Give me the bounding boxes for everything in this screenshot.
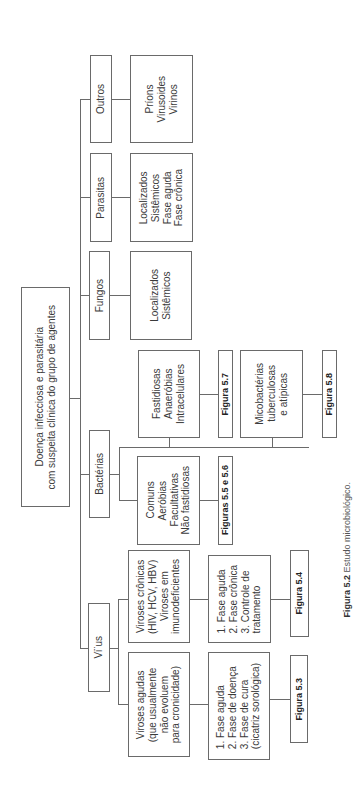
bacterias-branch-connector <box>110 474 119 475</box>
category-label: Vi¨us <box>93 636 105 659</box>
cronicas-phases-connector <box>190 599 208 600</box>
category-parasitas: Parasitas <box>90 153 112 242</box>
caption-text: Estudo microbiológico. <box>342 482 352 575</box>
category-virus: Vi¨us <box>88 603 110 692</box>
figure-ref-label: Figura 5.8 <box>324 373 335 416</box>
main-spine <box>80 99 81 649</box>
detail-label: Localizados Sistêmicos Fase aguda Fase c… <box>138 169 185 226</box>
detail-outros: Príons Virusoides Virinos <box>130 55 193 143</box>
virus-cronicas-phases: 1. Fase aguda 2. Fase crônica 3. Control… <box>208 555 271 643</box>
figure-ref-5-5-5-6: Figuras 5.5 e 5.6 <box>218 456 233 545</box>
comuns-figure-connector <box>200 500 218 501</box>
figure-caption: Figura 5.2 Estudo microbiológico. <box>337 340 357 760</box>
figure-ref-label: Figura 5.3 <box>294 678 305 721</box>
virus-agudas: Viroses agudas (que usualmente não evolu… <box>128 652 190 757</box>
detail-fungos: Localizados Sistêmicos <box>130 251 192 340</box>
category-bacterias: Bactérias <box>89 430 110 518</box>
virus-cronicas: Viroses crônicas (HIV, HCV, HBV) Viroses… <box>128 550 190 643</box>
figure-ref-label: Figura 5.4 <box>294 572 305 615</box>
virus-agudas-phases: 1. Fase aguda 2. Fase de doença 3. Fase … <box>208 652 270 760</box>
cronicas-label: Viroses crônicas (HIV, HCV, HBV) Viroses… <box>135 559 182 634</box>
comuns-connector <box>119 500 137 501</box>
agudas-connector <box>118 704 128 705</box>
fastidiosas-figure-connector <box>200 394 218 395</box>
category-label: Fungos <box>94 279 106 312</box>
category-fungos: Fungos <box>89 251 110 340</box>
detail-label: Príons Virusoides Virinos <box>144 76 179 123</box>
agudas-phases-connector <box>190 704 208 705</box>
agudas-figure-connector <box>270 699 290 700</box>
outros-connector <box>80 99 90 100</box>
figure-ref-5-7: Figura 5.7 <box>218 350 233 438</box>
virus-branch-spine <box>118 599 119 704</box>
agudas-label: Viroses agudas (que usualmente não evolu… <box>135 666 182 743</box>
micobacterias-figure-connector <box>303 394 322 395</box>
bacteria-comuns: Comuns Aeróbias Facultativas Não fastidi… <box>137 456 200 545</box>
comuns-label: Comuns Aeróbias Facultativas Não fastidi… <box>145 466 192 534</box>
cronicas-connector <box>118 599 128 600</box>
parasitas-connector <box>80 197 90 198</box>
bacterias-branch-spine <box>119 447 120 501</box>
bacteria-micobacterias: Micobactérias tuberculosas e atípicas <box>240 350 303 438</box>
bacteria-fastidiosas: Fastidiosas Anaeróbias Intracelulares <box>138 350 200 438</box>
figure-ref-label: Figura 5.7 <box>220 373 231 416</box>
figure-ref-5-4: Figura 5.4 <box>290 550 309 637</box>
cronicas-figure-connector <box>271 599 290 600</box>
parasitas-detail-connector <box>112 197 130 198</box>
root-connector <box>70 398 81 399</box>
outros-detail-connector <box>112 99 130 100</box>
figure-ref-5-3: Figura 5.3 <box>290 655 308 743</box>
detail-parasitas: Localizados Sistêmicos Fase aguda Fase c… <box>130 153 193 242</box>
fungos-detail-connector <box>110 295 130 296</box>
micobacterias-up <box>272 438 273 448</box>
agudas-phases-label: 1. Fase aguda 2. Fase de doença 3. Fase … <box>215 663 262 749</box>
figure-ref-5-8: Figura 5.8 <box>322 350 337 438</box>
root-label: Doença infecciosa e parasitária com susp… <box>34 305 58 490</box>
caption-figure-number: Figura 5.2 <box>342 575 352 618</box>
category-outros: Outros <box>90 55 112 143</box>
fastidiosas-connector <box>119 447 309 448</box>
fastidiosas-label: Fastidiosas Anaeróbias Intracelulares <box>151 364 186 424</box>
category-label: Outros <box>95 84 107 114</box>
category-label: Parasitas <box>95 177 107 219</box>
root-node: Doença infecciosa e parasitária com susp… <box>21 287 70 507</box>
fastidiosas-up <box>169 438 170 448</box>
virus-branch-connector <box>110 648 118 649</box>
micobacterias-label: Micobactérias tuberculosas e atípicas <box>254 363 289 425</box>
category-label: Bactérias <box>94 453 106 495</box>
figure-ref-label: Figuras 5.5 e 5.6 <box>220 465 231 535</box>
detail-label: Localizados Sistêmicos <box>149 269 173 322</box>
cronicas-phases-label: 1. Fase aguda 2. Fase crônica 3. Control… <box>216 565 263 633</box>
